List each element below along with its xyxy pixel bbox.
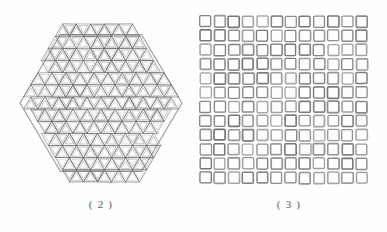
triangle-cell-inner bbox=[142, 135, 150, 143]
square-cell bbox=[328, 158, 339, 169]
square-cell bbox=[286, 73, 297, 84]
square-cell bbox=[285, 144, 296, 155]
triangle-cell-inner bbox=[167, 88, 176, 96]
square-cell bbox=[299, 73, 310, 84]
square-cell bbox=[200, 129, 211, 140]
square-cell bbox=[314, 101, 325, 112]
square-cell bbox=[257, 73, 268, 84]
square-cell bbox=[314, 115, 325, 126]
square-cell bbox=[313, 44, 324, 55]
triangle-cell-inner bbox=[132, 98, 141, 106]
figure-plate: ( 2 ) ( 3 ) bbox=[0, 0, 387, 232]
square-cell bbox=[200, 101, 211, 112]
triangle-cell-inner bbox=[121, 171, 130, 179]
square-cell bbox=[243, 130, 254, 141]
triangle-cell-inner bbox=[34, 98, 43, 106]
square-cell bbox=[257, 130, 268, 141]
square-cell bbox=[314, 30, 325, 41]
square-cell bbox=[243, 44, 254, 55]
square-cell bbox=[257, 102, 268, 113]
square-cell bbox=[214, 87, 225, 98]
square-cell bbox=[242, 101, 253, 112]
square-cell bbox=[215, 16, 226, 27]
square-cell bbox=[214, 172, 225, 183]
square-cell bbox=[356, 72, 367, 83]
square-cell bbox=[342, 130, 353, 141]
triangle-cell-inner bbox=[149, 63, 158, 71]
figure-hexagon-honeycomb: ( 2 ) bbox=[8, 10, 194, 222]
square-cell bbox=[356, 102, 367, 113]
square-cell bbox=[314, 130, 325, 141]
triangle-cell bbox=[119, 36, 133, 48]
triangle-cell-inner bbox=[86, 27, 95, 35]
square-cell bbox=[200, 59, 211, 70]
square-cell bbox=[200, 172, 211, 183]
triangle-cell-inner bbox=[100, 149, 109, 157]
square-cell bbox=[328, 59, 339, 70]
square-cell bbox=[328, 101, 339, 112]
hexagon-lattice-svg bbox=[8, 10, 194, 190]
square-cell bbox=[229, 115, 240, 126]
triangle-cell-inner bbox=[107, 63, 116, 71]
square-cell bbox=[200, 44, 211, 55]
square-cell bbox=[299, 30, 310, 41]
square-cell bbox=[271, 30, 282, 41]
square-cell bbox=[299, 115, 310, 126]
triangle-cell-inner bbox=[79, 39, 88, 46]
square-cell bbox=[356, 115, 367, 126]
square-cell bbox=[257, 172, 268, 183]
square-cell bbox=[299, 172, 310, 183]
triangle-cell-inner bbox=[160, 99, 168, 106]
triangle-cell-inner bbox=[118, 86, 127, 94]
square-cell bbox=[200, 144, 211, 155]
square-cell bbox=[342, 59, 353, 70]
triangle-cell-inner bbox=[90, 124, 99, 131]
square-cell bbox=[328, 30, 339, 41]
square-cell bbox=[342, 44, 353, 55]
square-cell bbox=[328, 144, 339, 155]
triangle-cell-inner bbox=[121, 136, 130, 144]
triangle-cell-inner bbox=[93, 171, 102, 179]
square-cell bbox=[214, 129, 225, 140]
square-cell bbox=[342, 101, 353, 112]
square-cell bbox=[242, 58, 253, 69]
triangle-cell-inner bbox=[118, 99, 127, 107]
square-cell bbox=[299, 59, 310, 70]
square-cell bbox=[285, 16, 296, 27]
square-cell bbox=[242, 144, 253, 155]
triangle-cell-inner bbox=[111, 100, 120, 108]
square-cell bbox=[314, 58, 325, 69]
square-cell bbox=[356, 144, 367, 155]
square-cell bbox=[200, 30, 211, 41]
triangle-cell-inner bbox=[125, 112, 134, 120]
square-cell bbox=[285, 172, 296, 183]
square-cell bbox=[214, 45, 225, 56]
square-cell bbox=[214, 73, 225, 84]
square-cell bbox=[328, 16, 339, 27]
triangle-cell-inner bbox=[86, 62, 95, 70]
triangle-cell-inner bbox=[114, 62, 123, 70]
triangle-cell-inner bbox=[72, 62, 81, 70]
triangle-cell-inner bbox=[121, 39, 130, 47]
triangle-cell-inner bbox=[58, 27, 66, 35]
triangle-cell-inner bbox=[55, 74, 64, 82]
triangle-cell-inner bbox=[90, 111, 99, 119]
square-cell bbox=[228, 144, 239, 155]
triangle-cell-inner bbox=[114, 135, 123, 143]
square-cell bbox=[271, 16, 282, 27]
triangle-cell-inner bbox=[76, 111, 85, 118]
square-cell bbox=[271, 44, 282, 55]
square-cell bbox=[214, 158, 225, 169]
square-cell bbox=[228, 16, 239, 27]
square-cell bbox=[342, 30, 353, 41]
square-cell bbox=[357, 172, 368, 183]
square-cell bbox=[271, 73, 282, 84]
square-cell bbox=[214, 144, 225, 155]
triangle-cell-inner bbox=[128, 135, 137, 142]
square-cell bbox=[200, 73, 211, 84]
square-cell bbox=[356, 30, 367, 41]
square-cell bbox=[299, 16, 310, 27]
square-cell bbox=[242, 172, 253, 183]
square-cell bbox=[214, 116, 225, 127]
square-cell bbox=[243, 115, 254, 126]
